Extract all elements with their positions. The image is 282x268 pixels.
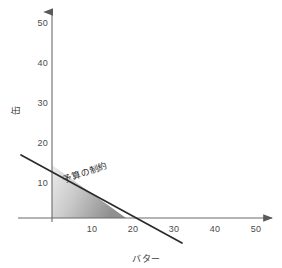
x-tick-label-50: 50	[244, 224, 268, 234]
x-tick-label-10: 10	[80, 224, 104, 234]
y-tick-label-40: 40	[26, 58, 48, 68]
x-axis-title: バター	[132, 252, 161, 265]
x-tick-label-20: 20	[121, 224, 145, 234]
x-tick-label-40: 40	[203, 224, 227, 234]
y-tick-label-20: 20	[26, 138, 48, 148]
x-tick-label-30: 30	[162, 224, 186, 234]
y-tick-label-10: 10	[26, 178, 48, 188]
y-tick-label-30: 30	[26, 98, 48, 108]
y-tick-label-50: 50	[26, 18, 48, 28]
budget-constraint-chart: 50 40 30 20 10 10 20 30 40 50 缶 バター 予算の制…	[0, 0, 282, 268]
y-axis-title: 缶	[9, 104, 22, 118]
